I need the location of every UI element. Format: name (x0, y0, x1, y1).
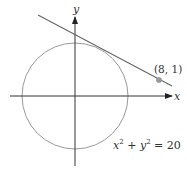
point-8-1 (156, 77, 161, 82)
y-axis-label: y (72, 3, 80, 16)
tangent-circle-diagram: x y (8, 1) x2 + y2 = 20 (0, 0, 187, 171)
circle-equation: x2 + y2 = 20 (113, 138, 181, 152)
point-label: (8, 1) (154, 63, 182, 75)
x-axis-label: x (174, 90, 181, 103)
tangent-line (38, 15, 172, 86)
